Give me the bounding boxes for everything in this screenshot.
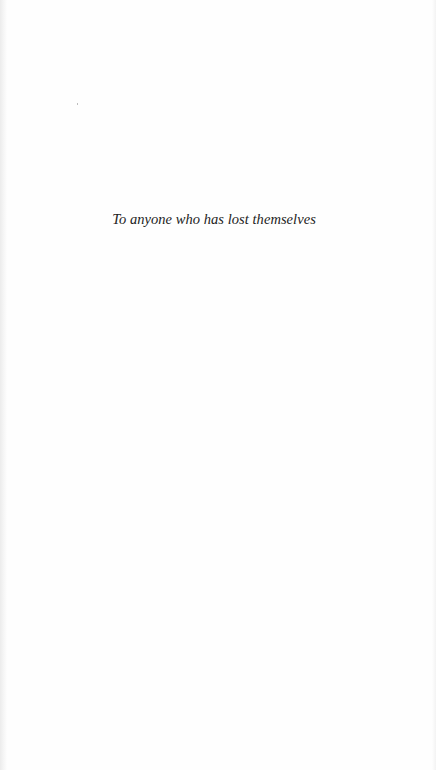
scan-speck (77, 103, 78, 105)
book-page: To anyone who has lost themselves (0, 0, 436, 770)
page-gutter-shadow (0, 0, 7, 770)
dedication-text: To anyone who has lost themselves (0, 209, 428, 229)
page-right-edge (432, 0, 436, 770)
